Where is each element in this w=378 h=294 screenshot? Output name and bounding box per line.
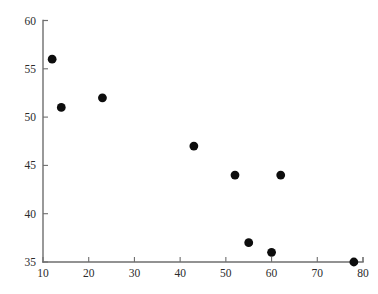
x-tick-label: 80 xyxy=(357,267,369,279)
data-point xyxy=(189,142,198,151)
scatter-plot-figure: 354045505560 1020304050607080 xyxy=(0,0,378,294)
y-tick-label: 40 xyxy=(25,208,37,220)
y-tick-label: 50 xyxy=(25,111,37,123)
data-point xyxy=(231,171,240,180)
x-tick-label: 40 xyxy=(174,267,186,279)
data-point xyxy=(98,93,107,102)
x-tick-label: 60 xyxy=(266,267,278,279)
data-point xyxy=(349,258,358,267)
data-point xyxy=(244,238,253,247)
y-axis: 354045505560 xyxy=(25,15,49,269)
data-point xyxy=(267,248,276,257)
x-tick-label: 30 xyxy=(129,267,141,279)
data-point xyxy=(57,103,66,112)
x-tick-label: 70 xyxy=(312,267,324,279)
y-tick-label: 55 xyxy=(25,63,37,75)
x-axis: 1020304050607080 xyxy=(37,257,369,279)
x-tick-label: 50 xyxy=(220,267,232,279)
data-point-series xyxy=(48,55,359,267)
y-tick-label: 35 xyxy=(25,256,37,268)
y-tick-label: 45 xyxy=(25,159,37,171)
scatter-plot-canvas: 354045505560 1020304050607080 xyxy=(0,0,378,294)
y-tick-label: 60 xyxy=(25,15,37,27)
x-tick-label: 20 xyxy=(83,267,95,279)
data-point xyxy=(48,55,57,64)
x-tick-label: 10 xyxy=(37,267,49,279)
data-point xyxy=(276,171,285,180)
